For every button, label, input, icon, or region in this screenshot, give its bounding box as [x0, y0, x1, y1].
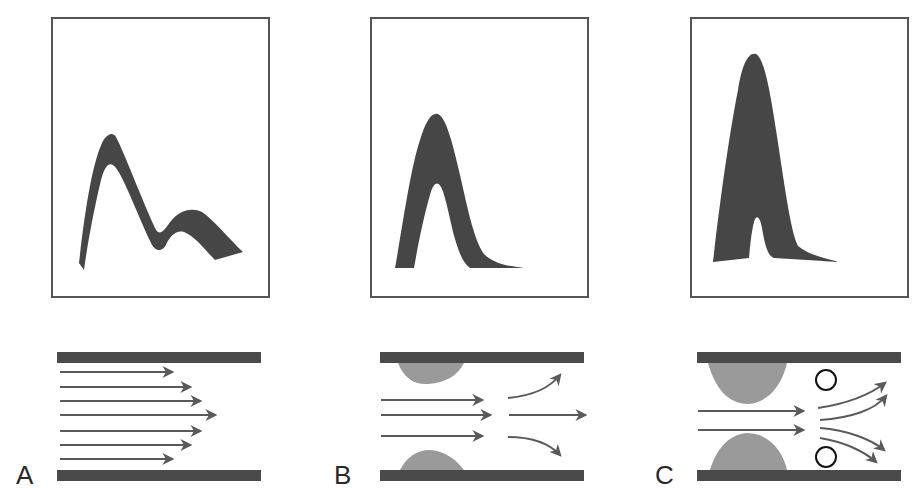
plaque-bottom: [710, 433, 787, 470]
eddy-circle-bottom: [816, 447, 836, 467]
figure-canvas: [0, 0, 924, 498]
panel-label-c: C: [655, 460, 674, 491]
vessel-wall-top: [57, 352, 261, 363]
panel-b-vessel: [380, 352, 585, 481]
plaque-top: [708, 363, 787, 404]
vessel-wall-top: [380, 352, 584, 363]
eddy-circle-top: [816, 370, 836, 390]
disturbed-flow-arrows: [381, 375, 585, 455]
vessel-wall-bottom: [697, 470, 901, 481]
laminar-flow-arrows: [60, 372, 215, 459]
panel-c-vessel: [697, 352, 901, 481]
panel-c-waveform-box: [691, 18, 908, 297]
plaque-top: [398, 363, 464, 384]
panel-label-a: A: [16, 460, 33, 491]
panel-a-waveform-box: [52, 18, 269, 297]
plaque-bottom: [400, 450, 464, 470]
panel-b-waveform-box: [371, 18, 588, 297]
panel-label-b: B: [334, 460, 351, 491]
vessel-wall-top: [697, 352, 901, 363]
panel-a-vessel: [57, 352, 261, 481]
vessel-wall-bottom: [380, 470, 584, 481]
vessel-wall-bottom: [57, 470, 261, 481]
